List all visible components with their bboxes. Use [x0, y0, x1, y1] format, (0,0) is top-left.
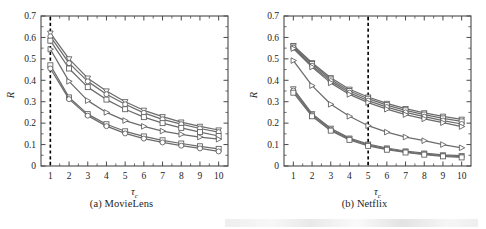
series-line	[50, 69, 218, 152]
y-tick-label: 0.7	[267, 11, 279, 21]
data-point-marker-circle	[216, 149, 221, 154]
x-tick-label: 1	[291, 171, 296, 181]
plot-a: 00.10.20.30.40.50.60.712345678910Rτc	[0, 0, 243, 198]
y-tick-label: 0.2	[267, 118, 279, 128]
series-5	[48, 63, 221, 152]
data-point-marker-square	[85, 85, 90, 90]
data-point-marker-square	[328, 128, 333, 133]
data-point-marker-circle	[197, 146, 202, 151]
x-tick-label: 10	[214, 171, 224, 181]
series-2	[291, 44, 464, 124]
y-tick-label: 0.1	[267, 140, 279, 150]
x-tick-label: 4	[104, 171, 109, 181]
data-point-marker-circle	[48, 66, 53, 71]
data-point-marker-circle	[179, 143, 184, 148]
x-tick-label: 6	[141, 171, 146, 181]
data-point-marker-triangle-right	[291, 58, 296, 64]
y-axis-title: R	[5, 91, 16, 99]
data-point-marker-square	[291, 90, 296, 95]
data-point-marker-circle	[123, 131, 128, 136]
data-point-marker-circle	[141, 136, 146, 141]
data-point-marker-triangle-right	[104, 110, 109, 116]
x-tick-label: 4	[347, 171, 352, 181]
x-tick-label: 3	[328, 171, 333, 181]
data-point-marker-square	[160, 121, 165, 126]
data-point-marker-triangle-right	[160, 128, 165, 134]
caption-panel-a: (a) MovieLens	[0, 198, 243, 209]
data-point-marker-triangle-right	[385, 129, 390, 135]
data-point-marker-triangle-right	[441, 142, 446, 148]
y-tick-label: 0.5	[24, 54, 36, 64]
series-group	[291, 43, 465, 159]
x-tick-label: 2	[310, 171, 315, 181]
series-line	[293, 46, 461, 121]
x-tick-label: 1	[48, 171, 53, 181]
x-tick-label: 8	[179, 171, 184, 181]
y-tick-label: 0	[274, 161, 279, 171]
data-point-marker-square	[197, 130, 202, 135]
data-point-marker-square	[422, 152, 427, 157]
figure-two-panel-line-charts: 00.10.20.30.40.50.60.712345678910Rτc (a)…	[0, 0, 486, 229]
y-tick-label: 0.7	[24, 11, 36, 21]
data-point-marker-square	[384, 147, 389, 152]
series-line	[293, 89, 461, 156]
plot-b: 00.10.20.30.40.50.60.712345678910Rτc	[243, 0, 486, 198]
y-tick-label: 0.5	[267, 54, 279, 64]
x-tick-label: 9	[441, 171, 446, 181]
data-point-marker-circle	[85, 79, 90, 84]
y-tick-label: 0.4	[267, 76, 279, 86]
data-point-marker-square	[123, 107, 128, 112]
series-4	[291, 46, 465, 130]
x-tick-label: 3	[85, 171, 90, 181]
data-point-marker-square	[67, 66, 72, 71]
data-point-marker-triangle-right	[422, 138, 427, 144]
x-tick-label: 9	[198, 171, 203, 181]
data-point-marker-circle	[85, 113, 90, 118]
series-3	[291, 45, 464, 126]
x-tick-label: 7	[403, 171, 408, 181]
y-tick-label: 0.4	[24, 76, 36, 86]
data-point-marker-triangle-right	[142, 124, 147, 130]
x-tick-label: 10	[457, 171, 467, 181]
x-tick-label: 5	[123, 171, 128, 181]
x-axis-title: τc	[374, 186, 382, 198]
y-tick-label: 0.1	[24, 140, 36, 150]
data-point-marker-square	[179, 125, 184, 130]
caption-panel-b: (b) Netflix	[243, 198, 486, 209]
data-point-marker-triangle-right	[179, 131, 184, 137]
series-6	[48, 66, 221, 154]
series-group	[48, 31, 222, 154]
panel-b-netflix: 00.10.20.30.40.50.60.712345678910Rτc (b)…	[243, 0, 486, 229]
x-tick-label: 2	[67, 171, 72, 181]
data-point-marker-triangle-right	[459, 145, 464, 151]
series-1	[291, 43, 465, 122]
data-point-marker-triangle-right	[123, 118, 128, 124]
series-line	[293, 48, 461, 124]
series-line	[50, 33, 218, 130]
y-tick-label: 0.3	[267, 97, 279, 107]
x-tick-label: 7	[160, 171, 165, 181]
data-point-marker-circle	[104, 92, 109, 97]
data-point-marker-square	[366, 143, 371, 148]
y-tick-label: 0.2	[24, 118, 36, 128]
data-point-marker-circle	[67, 97, 72, 102]
data-point-marker-square	[141, 115, 146, 120]
series-2	[48, 34, 221, 135]
series-1	[48, 31, 222, 133]
data-point-marker-circle	[160, 140, 165, 145]
data-point-marker-square	[104, 97, 109, 102]
x-axis-title: τc	[131, 186, 139, 198]
y-tick-label: 0	[31, 161, 36, 171]
y-tick-label: 0.6	[24, 33, 36, 43]
data-point-marker-triangle-right	[347, 113, 352, 119]
series-line	[293, 46, 461, 120]
x-tick-label: 5	[366, 171, 371, 181]
data-point-marker-square	[403, 150, 408, 155]
data-point-marker-circle	[104, 124, 109, 129]
x-tick-label: 8	[422, 171, 427, 181]
data-point-marker-square	[459, 155, 464, 160]
data-point-marker-square	[310, 114, 315, 119]
data-point-marker-square	[440, 154, 445, 159]
x-tick-label: 6	[384, 171, 389, 181]
y-axis-title: R	[248, 91, 259, 99]
